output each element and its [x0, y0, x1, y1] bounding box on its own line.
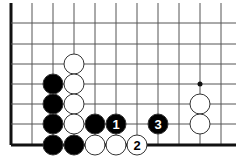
black-stone-1: 1 — [106, 114, 126, 134]
black-stone — [43, 94, 63, 114]
white-stone — [64, 94, 84, 114]
black-stone — [43, 135, 63, 155]
white-stone — [190, 94, 210, 114]
move-number: 1 — [112, 117, 119, 132]
star-point — [198, 82, 203, 87]
star-points — [198, 82, 203, 87]
white-stone — [64, 74, 84, 94]
white-stone — [64, 114, 84, 134]
go-board: 132 — [0, 0, 250, 166]
white-stone — [106, 135, 126, 155]
black-stone — [43, 74, 63, 94]
black-stone — [85, 114, 105, 134]
white-stone — [64, 54, 84, 74]
black-stone — [43, 114, 63, 134]
black-stone-3: 3 — [148, 114, 168, 134]
move-number: 2 — [133, 138, 140, 153]
move-number: 3 — [154, 117, 161, 132]
white-stone-2: 2 — [127, 135, 147, 155]
black-stone — [64, 135, 84, 155]
white-stone — [190, 114, 210, 134]
white-stone — [85, 135, 105, 155]
